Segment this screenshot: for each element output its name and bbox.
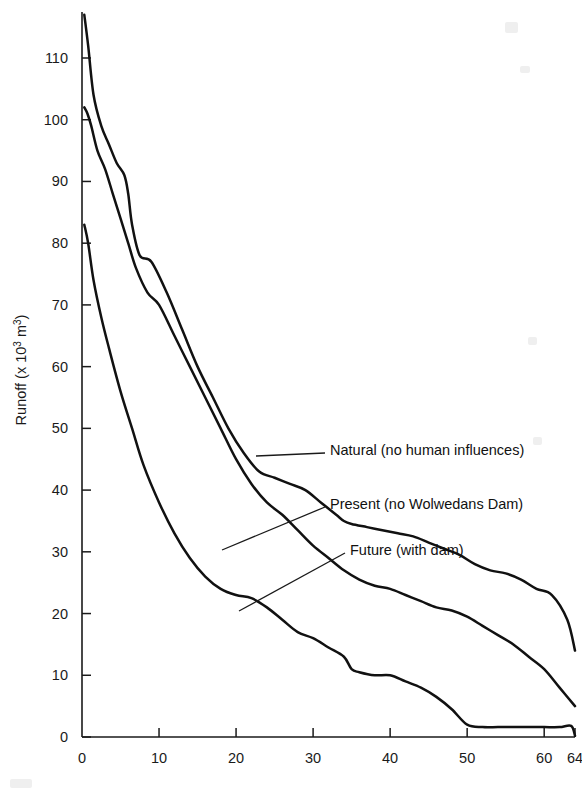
x-axis-tick-labels: 010203040506064 <box>78 750 582 766</box>
y-tick-label-60: 60 <box>52 359 68 375</box>
y-tick-label-0: 0 <box>60 729 68 745</box>
y-axis-title-tail: m <box>13 325 29 341</box>
runoff-duration-chart: 0102030405060708090100110 01020304050606… <box>0 0 582 795</box>
curve-present <box>84 107 575 706</box>
y-axis-title-text: Runoff (x 103 m3) <box>12 315 29 426</box>
curve-natural <box>84 15 575 651</box>
x-tick-label-50: 50 <box>459 750 475 766</box>
annotation-label-future: Future (with dam) <box>350 542 464 558</box>
y-tick-label-110: 110 <box>45 50 68 66</box>
y-tick-label-90: 90 <box>52 173 68 189</box>
plot-axes <box>82 12 575 737</box>
x-tick-label-10: 10 <box>151 750 167 766</box>
x-tick-label-40: 40 <box>382 750 398 766</box>
x-tick-label-64: 64 <box>567 750 582 766</box>
x-tick-label-20: 20 <box>228 750 244 766</box>
annotation-label-natural: Natural (no human influences) <box>330 442 524 458</box>
chart-page: 0102030405060708090100110 01020304050606… <box>0 0 582 795</box>
y-axis-ticks <box>82 58 91 737</box>
y-tick-label-30: 30 <box>52 544 68 560</box>
x-tick-label-30: 30 <box>305 750 321 766</box>
leader-line-future <box>239 553 345 611</box>
y-tick-label-80: 80 <box>52 235 68 251</box>
x-axis-ticks <box>159 728 575 737</box>
y-tick-label-50: 50 <box>52 420 68 436</box>
leader-line-natural <box>256 453 325 456</box>
series-curves <box>84 15 575 736</box>
y-axis-title-base: Runoff (x 10 <box>13 347 29 426</box>
y-axis-title: Runoff (x 103 m3) <box>12 315 29 426</box>
y-axis-tick-labels: 0102030405060708090100110 <box>44 50 68 745</box>
y-tick-label-10: 10 <box>52 667 68 683</box>
y-axis-title-close: ) <box>13 315 29 320</box>
x-tick-label-0: 0 <box>78 750 86 766</box>
annotation-label-present: Present (no Wolwedans Dam) <box>330 496 523 512</box>
y-tick-label-70: 70 <box>52 297 68 313</box>
x-tick-label-60: 60 <box>536 750 552 766</box>
y-tick-label-20: 20 <box>52 606 68 622</box>
y-tick-label-100: 100 <box>44 112 68 128</box>
y-tick-label-40: 40 <box>52 482 68 498</box>
annotation-leaders <box>222 453 345 611</box>
